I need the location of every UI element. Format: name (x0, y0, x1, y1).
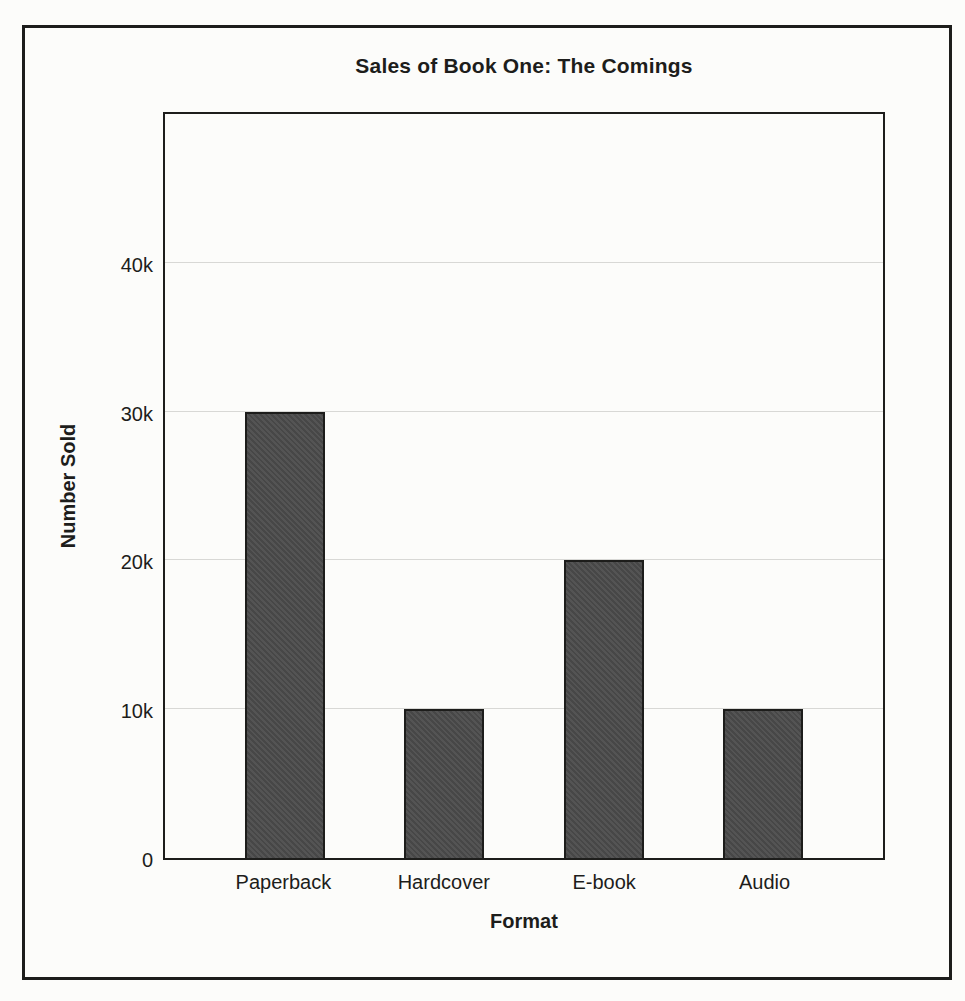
bars-container (165, 114, 883, 858)
x-tick-cell: E-book (564, 869, 644, 895)
y-tick-label-20k: 20k (0, 550, 153, 574)
bar-audio (723, 709, 803, 858)
chart-title: Sales of Book One: The Comings (163, 54, 885, 78)
y-axis-tick-labels: 010k20k30k40k (0, 112, 153, 860)
y-tick-label-30k: 30k (0, 402, 153, 426)
x-tick-cell: Audio (725, 869, 805, 895)
bar-hardcover (404, 709, 484, 858)
y-tick-label-10k: 10k (0, 699, 153, 723)
x-tick-label-paperback: Paperback (236, 869, 332, 895)
bar-e-book (564, 560, 644, 858)
x-tick-cell: Hardcover (404, 869, 484, 895)
x-axis-title: Format (163, 910, 885, 933)
x-tick-label-e-book: E-book (572, 869, 635, 895)
bar-paperback (245, 412, 325, 858)
x-tick-label-hardcover: Hardcover (398, 869, 490, 895)
x-tick-cell: Paperback (243, 869, 323, 895)
x-tick-label-audio: Audio (739, 869, 790, 895)
plot-area (163, 112, 885, 860)
scanned-chart-page: Sales of Book One: The Comings Number So… (0, 0, 965, 1001)
x-axis-tick-labels: PaperbackHardcoverE-bookAudio (163, 869, 885, 895)
y-tick-label-40k: 40k (0, 253, 153, 277)
y-tick-label-0: 0 (0, 848, 153, 872)
